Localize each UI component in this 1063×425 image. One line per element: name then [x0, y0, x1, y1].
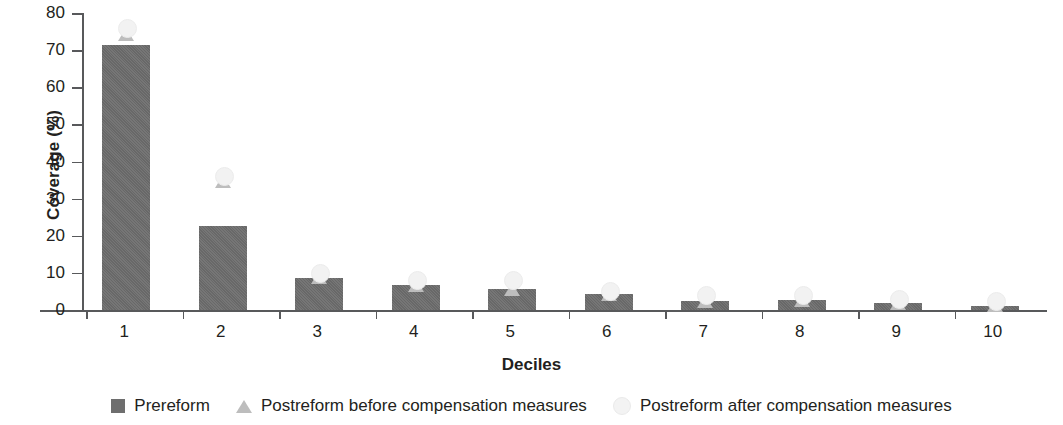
x-tick — [665, 310, 667, 319]
x-tick — [569, 310, 571, 319]
x-tick-label: 4 — [409, 322, 418, 342]
x-tick — [279, 310, 281, 319]
legend-label: Postreform before compensation measures — [261, 396, 587, 416]
legend-item: Postreform before compensation measures — [236, 396, 587, 416]
x-tick-label: 2 — [216, 322, 225, 342]
x-tick-label: 5 — [506, 322, 515, 342]
y-tick: 70 — [72, 50, 82, 52]
x-tick — [183, 310, 185, 319]
coverage-by-decile-chart: Coverage (%) 01020304050607080 123456789… — [0, 0, 1063, 425]
legend-triangle-icon — [236, 400, 252, 413]
legend-circle-icon — [613, 397, 631, 415]
y-tick-label: 10 — [46, 263, 65, 283]
y-tick-label: 20 — [46, 226, 65, 246]
x-tick — [376, 310, 378, 319]
y-tick-label: 50 — [46, 114, 65, 134]
marker-postreform-after — [311, 264, 330, 283]
y-tick: 20 — [72, 236, 82, 238]
y-tick-label: 0 — [56, 300, 65, 320]
chart-legend: PrereformPostreform before compensation … — [0, 396, 1063, 416]
x-axis-title: Deciles — [0, 355, 1063, 375]
x-tick — [858, 310, 860, 319]
legend-square-icon — [111, 399, 125, 413]
x-tick — [86, 310, 88, 319]
y-tick: 60 — [72, 87, 82, 89]
x-tick — [955, 310, 957, 319]
x-tick-label: 6 — [602, 322, 611, 342]
y-tick-label: 80 — [46, 3, 65, 23]
marker-postreform-after — [504, 271, 523, 290]
y-tick-label: 40 — [46, 152, 65, 172]
x-tick — [472, 310, 474, 319]
y-tick: 40 — [72, 162, 82, 164]
bar-prereform — [102, 45, 150, 310]
legend-label: Postreform after compensation measures — [640, 396, 952, 416]
legend-item: Prereform — [111, 396, 210, 416]
bar-prereform — [199, 226, 247, 310]
x-tick — [762, 310, 764, 319]
y-tick-label: 30 — [46, 189, 65, 209]
x-tick-label: 8 — [795, 322, 804, 342]
marker-postreform-after — [890, 290, 909, 309]
marker-postreform-after — [408, 271, 427, 290]
x-tick-label: 1 — [120, 322, 129, 342]
marker-postreform-after — [215, 167, 234, 186]
y-tick: 80 — [72, 13, 82, 15]
x-tick-label: 10 — [983, 322, 1002, 342]
y-tick: 30 — [72, 199, 82, 201]
y-tick: 10 — [72, 273, 82, 275]
marker-postreform-after — [118, 19, 137, 38]
x-tick-label: 7 — [699, 322, 708, 342]
legend-label: Prereform — [134, 396, 210, 416]
y-tick-label: 60 — [46, 77, 65, 97]
x-tick-label: 9 — [892, 322, 901, 342]
plot-area: 01020304050607080 12345678910 — [82, 13, 1047, 310]
y-tick: 0 — [72, 310, 82, 312]
marker-postreform-after — [987, 292, 1006, 311]
y-tick: 50 — [72, 124, 82, 126]
x-tick-label: 3 — [313, 322, 322, 342]
y-tick-label: 70 — [46, 40, 65, 60]
legend-item: Postreform after compensation measures — [613, 396, 952, 416]
marker-postreform-after — [794, 286, 813, 305]
